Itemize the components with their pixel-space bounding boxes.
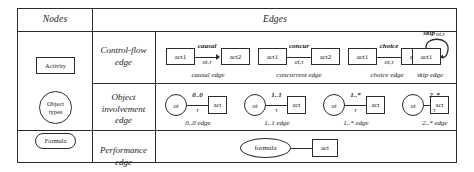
causal-target-label: act2 xyxy=(230,53,242,61)
row-label-object-involvement: Object involvement edge xyxy=(92,92,155,127)
one-one-bottom-label: τ xyxy=(256,106,297,113)
one-star-caption: 1..* edge xyxy=(326,119,386,127)
performance-formula-label: formula xyxy=(254,144,276,152)
node-activity: Activity xyxy=(36,57,75,74)
row-label-control-flow-line2: edge xyxy=(92,57,155,69)
row-label-performance-line2: edge xyxy=(92,157,155,169)
causal-top-label: causal xyxy=(183,42,231,50)
row-label-object-involvement-line1: Object xyxy=(92,92,155,104)
header-divider xyxy=(18,31,456,32)
causal-bottom-label: ot,τ xyxy=(184,58,230,65)
performance-target-label: act xyxy=(321,144,329,152)
concurrent-top-label: concur xyxy=(275,42,323,50)
skip-top-label: skip xyxy=(399,29,435,37)
performance-target-box: act xyxy=(312,139,338,157)
row-label-performance: Performance edge xyxy=(92,145,155,168)
node-object-types-label-line2: types xyxy=(47,108,64,116)
header-edges: Edges xyxy=(92,14,458,24)
row-label-control-flow: Control-flow edge xyxy=(92,45,155,68)
row-divider-objects xyxy=(92,83,456,84)
column-divider-edge-type xyxy=(155,31,156,162)
two-star-bottom-label: τ xyxy=(414,106,455,113)
skip-caption: skip edge xyxy=(403,71,457,79)
header-nodes: Nodes xyxy=(18,14,92,24)
node-activity-label: Activity xyxy=(45,62,66,70)
skip-bottom-label: ot,τ xyxy=(436,30,460,37)
one-one-top-label: 1..1 xyxy=(256,91,297,99)
row-label-performance-line1: Performance xyxy=(92,145,155,157)
zero-zero-top-label: 0..0 xyxy=(177,91,218,99)
figure-canvas: Nodes Edges Activity Object types Formul… xyxy=(0,0,474,172)
node-formula-label: Formula xyxy=(45,137,67,145)
two-star-top-label: 2..* xyxy=(414,91,455,99)
row-label-object-involvement-line3: edge xyxy=(92,115,155,127)
causal-caption: causal edge xyxy=(170,71,246,79)
row-label-object-involvement-line2: involvement xyxy=(92,104,155,116)
row-label-control-flow-line1: Control-flow xyxy=(92,45,155,57)
node-formula: Formula xyxy=(35,133,76,149)
concurrent-caption: concurrent edge xyxy=(257,71,341,79)
performance-connector xyxy=(291,148,312,149)
zero-zero-caption: 0..0 edge xyxy=(168,119,228,127)
zero-zero-bottom-label: τ xyxy=(177,106,218,113)
legend-table: Nodes Edges Activity Object types Formul… xyxy=(17,8,457,163)
one-star-top-label: 1..* xyxy=(335,91,376,99)
performance-formula-ellipse: formula xyxy=(240,138,291,158)
concurrent-bottom-label: ot,τ xyxy=(276,58,322,65)
one-star-bottom-label: τ xyxy=(335,106,376,113)
row-divider-performance xyxy=(18,130,456,131)
node-object-types-label-line1: Object xyxy=(47,100,64,108)
choice-top-label: choice xyxy=(365,42,413,50)
node-object-types: Object types xyxy=(39,91,72,124)
two-star-caption: 2..* edge xyxy=(405,119,465,127)
choice-bottom-label: ot,τ xyxy=(366,58,412,65)
one-one-caption: 1..1 edge xyxy=(247,119,307,127)
